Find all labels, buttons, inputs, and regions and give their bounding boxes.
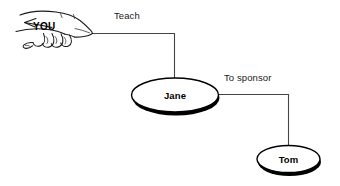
edge-sponsor: To sponsor <box>217 72 289 145</box>
diagram-canvas: Teach To sponsor Jane Tom <box>0 0 340 186</box>
actor-you-label: YOU <box>33 21 56 32</box>
edge-sponsor-line <box>217 95 289 145</box>
edge-teach: Teach <box>93 10 175 80</box>
node-jane-label: Jane <box>164 90 186 101</box>
node-jane[interactable]: Jane <box>132 78 220 116</box>
edge-teach-line <box>93 34 175 80</box>
node-tom[interactable]: Tom <box>257 146 321 177</box>
diagram-svg: Teach To sponsor Jane Tom <box>0 0 340 186</box>
edge-sponsor-label: To sponsor <box>224 72 271 83</box>
edge-teach-label: Teach <box>114 10 140 21</box>
node-tom-label: Tom <box>279 154 299 165</box>
